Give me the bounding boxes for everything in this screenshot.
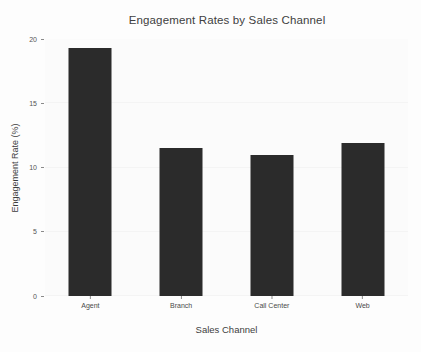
x-tick: Agent — [81, 296, 99, 309]
x-tick-mark — [90, 296, 91, 299]
x-axis-title: Sales Channel — [45, 324, 408, 335]
bar[interactable] — [341, 143, 384, 296]
x-tick-mark — [362, 296, 363, 299]
bar-slot — [45, 39, 136, 296]
y-tick-mark — [41, 231, 44, 232]
x-tick-label: Agent — [81, 302, 99, 309]
plot-area — [45, 39, 408, 296]
x-tick: Call Center — [254, 296, 289, 309]
x-tick: Web — [355, 296, 369, 309]
chart-figure: Engagement Rates by Sales Channel 051015… — [0, 0, 421, 352]
bar-slot — [227, 39, 318, 296]
x-tick-label: Branch — [170, 302, 192, 309]
x-axis: AgentBranchCall CenterWeb — [45, 296, 408, 318]
x-tick: Branch — [170, 296, 192, 309]
y-tick-mark — [41, 167, 44, 168]
y-axis-title: Engagement Rate (%) — [8, 39, 22, 296]
x-tick-label: Call Center — [254, 302, 289, 309]
x-tick-mark — [271, 296, 272, 299]
bar[interactable] — [250, 155, 293, 296]
x-tick-mark — [181, 296, 182, 299]
y-axis: 05101520 — [0, 39, 45, 296]
bar-series — [45, 39, 408, 296]
y-tick-label: 15 — [29, 100, 41, 107]
x-tick-label: Web — [355, 302, 369, 309]
y-tick-mark — [41, 103, 44, 104]
y-axis-title-label: Engagement Rate (%) — [10, 123, 20, 212]
y-tick-label: 0 — [33, 293, 41, 300]
chart-title: Engagement Rates by Sales Channel — [45, 14, 409, 26]
y-tick-label: 20 — [29, 36, 41, 43]
y-tick-mark — [41, 296, 44, 297]
bar[interactable] — [160, 148, 203, 296]
y-tick-label: 10 — [29, 164, 41, 171]
bar[interactable] — [69, 48, 112, 296]
bar-slot — [136, 39, 227, 296]
y-tick-mark — [41, 39, 44, 40]
y-tick-label: 5 — [33, 228, 41, 235]
bar-slot — [317, 39, 408, 296]
